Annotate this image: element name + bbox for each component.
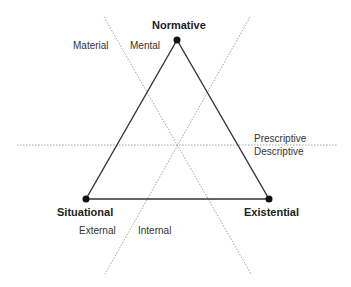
edge-normative-situational — [86, 40, 177, 199]
label-external: External — [79, 226, 116, 236]
label-descriptive: Descriptive — [254, 147, 303, 157]
label-situational: Situational — [57, 207, 113, 218]
label-normative: Normative — [152, 20, 206, 31]
label-mental: Mental — [130, 41, 160, 51]
divider-external-internal — [105, 17, 250, 274]
node-existential — [266, 196, 273, 203]
edge-normative-existential — [177, 40, 269, 199]
node-situational — [83, 196, 90, 203]
label-material: Material — [73, 41, 109, 51]
label-existential: Existential — [244, 207, 299, 218]
label-prescriptive: Prescriptive — [254, 134, 306, 144]
label-internal: Internal — [138, 226, 171, 236]
node-normative — [174, 37, 181, 44]
